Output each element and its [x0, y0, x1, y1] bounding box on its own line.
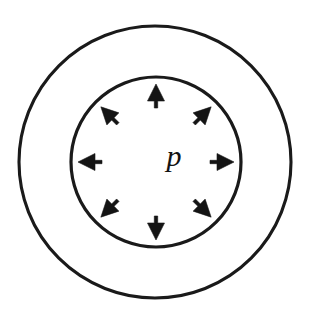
figure-canvas: p — [0, 0, 310, 314]
pressure-vessel-diagram: p — [0, 0, 310, 314]
diagram-background — [0, 0, 310, 314]
pressure-label-p: p — [165, 139, 182, 172]
